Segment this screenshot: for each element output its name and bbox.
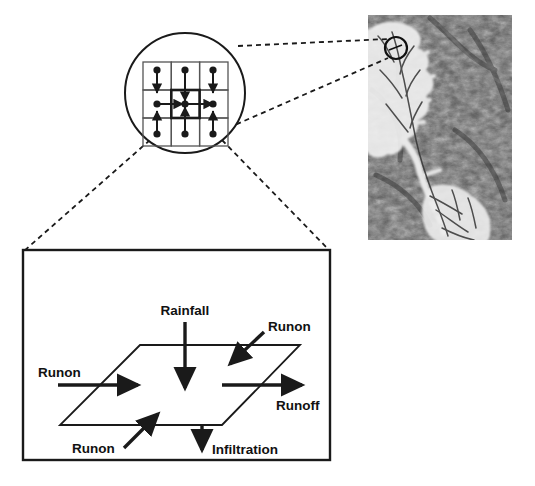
label-runon-bottom: Runon <box>72 441 115 456</box>
label-runon-left: Runon <box>38 365 81 380</box>
label-runon-top-right: Runon <box>268 319 311 334</box>
lineart-layer: Rainfall Runon Runon Runon Runoff Infilt… <box>0 0 535 486</box>
dashed-connector-lower <box>228 58 388 128</box>
cell-water-balance-box: Rainfall Runon Runon Runon Runoff Infilt… <box>23 250 330 460</box>
dashed-connector-left <box>24 140 150 251</box>
dashed-connector-right <box>222 140 330 251</box>
dashed-connector-upper <box>238 39 388 46</box>
connector-lines-to-box <box>24 140 330 251</box>
label-runoff: Runoff <box>276 398 320 413</box>
detail-box-border <box>23 250 330 460</box>
label-rainfall: Rainfall <box>161 303 210 318</box>
figure-root: Rainfall Runon Runon Runon Runoff Infilt… <box>0 0 535 486</box>
grid-magnifier <box>125 33 245 153</box>
connector-lines-to-satellite <box>228 39 388 128</box>
label-infiltration: Infiltration <box>212 442 278 457</box>
